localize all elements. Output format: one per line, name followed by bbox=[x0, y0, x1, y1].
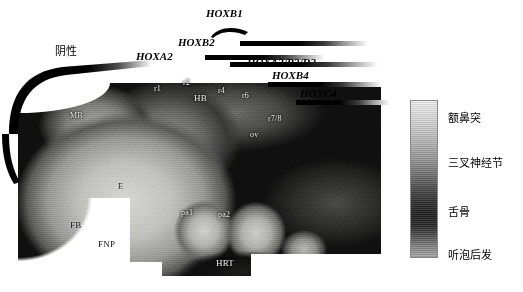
legend-label-frontonasal: 额鼻突 bbox=[448, 113, 481, 124]
negative-sweep-upper bbox=[9, 60, 152, 134]
negative-label: 阴性 bbox=[55, 46, 77, 57]
embryo-label-hrt: HRT bbox=[216, 259, 234, 268]
gene-label-hoxa2: HOXA2 bbox=[136, 51, 173, 62]
embryo-label-ov: ov bbox=[250, 131, 258, 139]
gene-bar-hoxa3b3d3 bbox=[230, 62, 378, 67]
gene-label-hoxb1: HOXB1 bbox=[206, 8, 243, 19]
gene-label-hoxb2: HOXB2 bbox=[178, 37, 215, 48]
negative-domain-curve bbox=[0, 48, 200, 188]
negative-sweep-lower bbox=[2, 134, 20, 184]
embryo-label-fnp: FNP bbox=[98, 240, 115, 249]
legend-gradient-bar bbox=[410, 100, 438, 258]
embryo-label-r78: r7/8 bbox=[268, 115, 282, 123]
embryo-label-pa2: pa2 bbox=[218, 211, 230, 219]
gene-bar-hoxb2 bbox=[240, 41, 368, 46]
embryo-mask-bottom-right bbox=[251, 254, 381, 276]
embryo-label-pa1: pa1 bbox=[181, 209, 193, 217]
embryo-label-fb: FB bbox=[70, 221, 81, 230]
legend-label-post-otic: 听泡后发 bbox=[448, 250, 492, 261]
legend-label-hyoid: 舌骨 bbox=[448, 207, 470, 218]
gene-marker-hoxb1-arc bbox=[210, 26, 250, 38]
gene-label-hoxc4: HOXC4 bbox=[300, 88, 337, 99]
legend-label-trigeminal: 三叉神经节 bbox=[448, 158, 503, 169]
figure-root: MB r1 r2 HB r4 r6 r7/8 ov E FB FNP pa1 p… bbox=[0, 0, 523, 292]
gene-bar-hoxc4 bbox=[296, 100, 390, 105]
embryo-label-r6: r6 bbox=[242, 92, 249, 100]
embryo-label-r4: r4 bbox=[218, 87, 225, 95]
gene-label-hoxb4: HOXB4 bbox=[272, 70, 309, 81]
embryo-mask-bottom-mid bbox=[102, 262, 162, 276]
